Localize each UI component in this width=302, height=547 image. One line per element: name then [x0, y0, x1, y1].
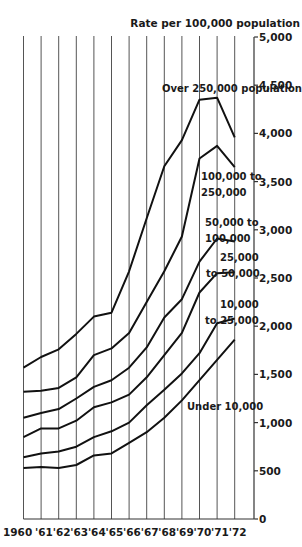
x-tick-label: '61 — [35, 526, 53, 538]
x-tick-label: '71 — [211, 526, 229, 538]
y-tick-label: 500 — [259, 465, 281, 477]
x-tick-label: '70 — [194, 526, 212, 538]
x-tick-label: '67 — [141, 526, 159, 538]
x-tick-label: '64 — [88, 526, 106, 538]
crime-rate-line-chart: 05001,0001,5002,0002,5003,0003,5004,0004… — [0, 0, 302, 547]
x-tick-label: '66 — [123, 526, 141, 538]
series-label-1: 250,000 — [201, 187, 247, 198]
x-tick-label: '62 — [53, 526, 71, 538]
y-tick-label: 2,500 — [259, 272, 292, 284]
series-label-2: 50,000 to — [205, 217, 259, 228]
y-tick-label: 1,000 — [259, 417, 292, 429]
x-tick-label: '69 — [176, 526, 194, 538]
y-tick-label: 4,000 — [259, 127, 292, 139]
x-tick-label: '63 — [70, 526, 88, 538]
y-tick-label: 1,500 — [259, 368, 292, 380]
y-tick-label: 2,000 — [259, 320, 292, 332]
x-tick-label: '68 — [158, 526, 176, 538]
series-label-0: Over 250,000 population — [162, 83, 302, 94]
series-label-2: 100,000 — [205, 233, 251, 244]
x-axis-year-labels: 1960'61'62'63'64'65'66'67'68'69'70'71'72 — [3, 526, 247, 538]
x-tick-label: '72 — [229, 526, 247, 538]
y-axis-title: Rate per 100,000 population — [130, 17, 300, 29]
y-tick-label: 3,500 — [259, 176, 292, 188]
series-label-4: 10,000 — [220, 299, 259, 310]
series-label-3: 25,000 — [220, 252, 259, 263]
x-tick-label: 1960 — [3, 526, 32, 538]
series-label-4: to 25,000 — [205, 315, 259, 326]
y-tick-label: 5,000 — [259, 31, 292, 43]
series-label-3: to 50,000 — [206, 268, 260, 279]
x-tick-label: '65 — [106, 526, 124, 538]
series-label-5: Under 10,000 — [187, 401, 263, 412]
y-tick-label: 3,000 — [259, 224, 292, 236]
y-tick-label: 0 — [259, 513, 266, 525]
series-label-1: 100,000 to — [201, 171, 262, 182]
